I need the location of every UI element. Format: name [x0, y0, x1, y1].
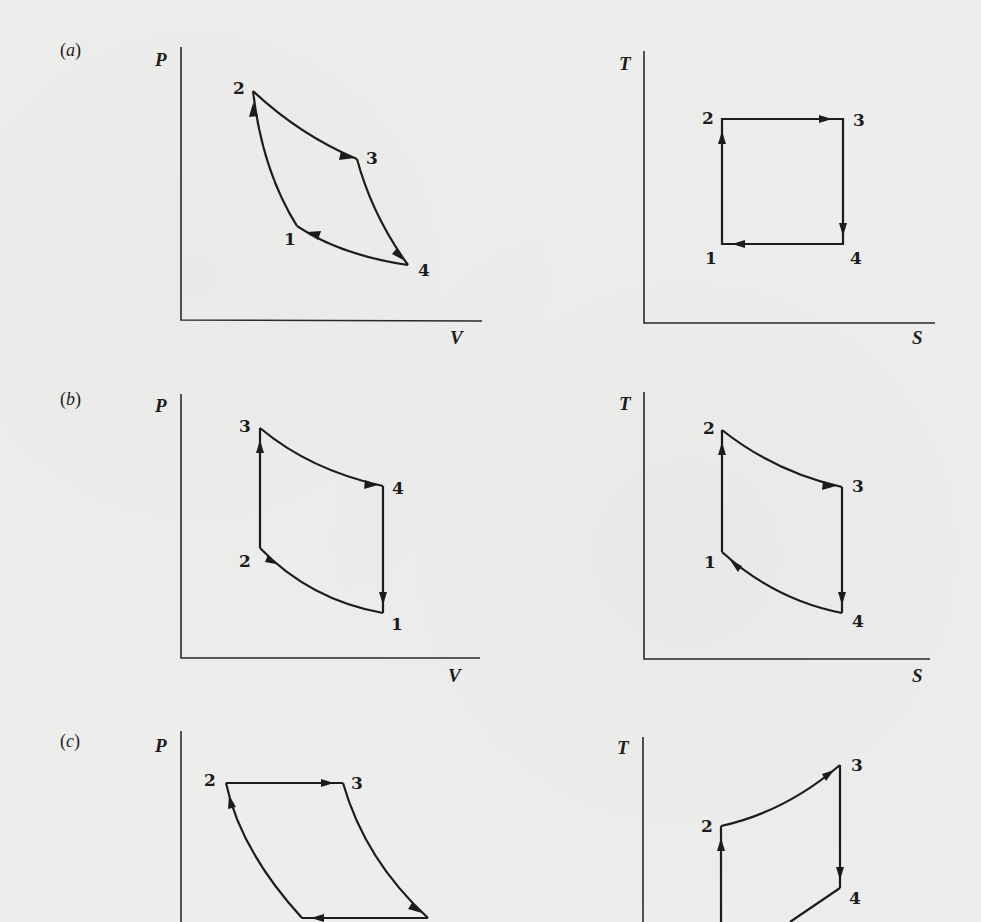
thermodynamic-cycles-figure: (a) P V 2 3 1 4 T S [0, 0, 981, 922]
point-label-1: 1 [284, 229, 296, 249]
y-axis-label-p: P [154, 735, 167, 756]
arrow-left-icon [311, 914, 324, 922]
panel-label-a: (a) [60, 40, 81, 61]
arrow-right-icon [364, 480, 378, 489]
ts-axes-b [644, 392, 930, 659]
panel-label-b: (b) [60, 389, 81, 410]
process-1-2 [260, 548, 383, 613]
panel-a: (a) P V 2 3 1 4 T S [60, 40, 935, 348]
panel-label-c: (c) [60, 731, 80, 752]
point-label-3: 3 [239, 416, 251, 436]
point-label-2: 2 [204, 770, 216, 790]
pv-axes-b [181, 394, 480, 658]
y-axis-label-t: T [617, 737, 630, 758]
point-label-2: 2 [703, 418, 715, 438]
point-label-4: 4 [392, 478, 404, 498]
ts-diagram-c: T 2 3 4 [617, 737, 863, 922]
point-label-4: 4 [418, 260, 430, 280]
arrow-upleft-icon [265, 555, 276, 564]
arrow-up-icon [718, 442, 726, 455]
point-label-4: 4 [850, 248, 862, 268]
point-label-2: 2 [233, 78, 245, 98]
pv-axes-a [181, 47, 482, 321]
arrow-up-icon [228, 795, 236, 809]
pv-diagram-a: P V 2 3 1 4 [154, 47, 482, 348]
ts-diagram-a: T S 2 3 1 4 [619, 51, 935, 348]
arrow-down-icon [839, 223, 847, 236]
point-label-3: 3 [366, 148, 378, 168]
arrow-right-icon [819, 115, 832, 123]
carnot-rectangle [722, 119, 843, 244]
process-1-2 [226, 783, 302, 918]
arrow-down-icon [838, 592, 846, 605]
process-3-4 [357, 159, 408, 265]
arrow-up-icon [718, 131, 726, 144]
point-label-4: 4 [849, 888, 861, 908]
arrow-down-icon [836, 867, 844, 880]
panel-b: (b) P V 3 4 2 1 T S [60, 389, 930, 686]
point-label-1: 1 [391, 614, 403, 634]
point-label-2: 2 [239, 551, 251, 571]
x-axis-label-s: S [912, 327, 923, 348]
arrow-right-icon [321, 779, 334, 787]
process-4-1 [790, 888, 840, 922]
arrow-right-icon [339, 151, 355, 160]
point-label-3: 3 [853, 110, 865, 130]
x-axis-label-s: S [912, 665, 923, 686]
x-axis-label-v: V [450, 327, 464, 348]
pv-diagram-c: P 2 3 [154, 731, 428, 922]
y-axis-label-t: T [619, 53, 632, 74]
process-3-4 [260, 428, 383, 486]
point-label-2: 2 [702, 108, 714, 128]
process-4-1 [722, 552, 842, 613]
figure-page: (a) P V 2 3 1 4 T S [0, 0, 981, 922]
panel-c: (c) P 2 3 T [60, 731, 863, 922]
process-2-3 [253, 91, 357, 159]
process-2-3 [722, 430, 842, 487]
point-label-1: 1 [704, 552, 716, 572]
arrow-up-icon [256, 440, 264, 453]
point-label-1: 1 [705, 248, 717, 268]
y-axis-label-p: P [154, 49, 167, 70]
ts-diagram-b: T S 2 3 1 4 [619, 392, 930, 686]
point-label-2: 2 [701, 816, 713, 836]
process-3-4 [343, 783, 428, 918]
arrow-up-icon [717, 838, 725, 851]
point-label-3: 3 [351, 773, 363, 793]
point-label-4: 4 [852, 611, 864, 631]
arrow-left-icon [732, 240, 745, 248]
point-label-3: 3 [851, 755, 863, 775]
pv-diagram-b: P V 3 4 2 1 [154, 394, 480, 686]
x-axis-label-v: V [448, 665, 462, 686]
y-axis-label-p: P [154, 395, 167, 416]
arrow-right-icon [822, 481, 836, 490]
y-axis-label-t: T [619, 393, 632, 414]
ts-axes-a [644, 51, 935, 323]
arrow-upleft-icon [730, 560, 742, 572]
point-label-3: 3 [852, 476, 864, 496]
arrow-down-icon [379, 592, 387, 605]
